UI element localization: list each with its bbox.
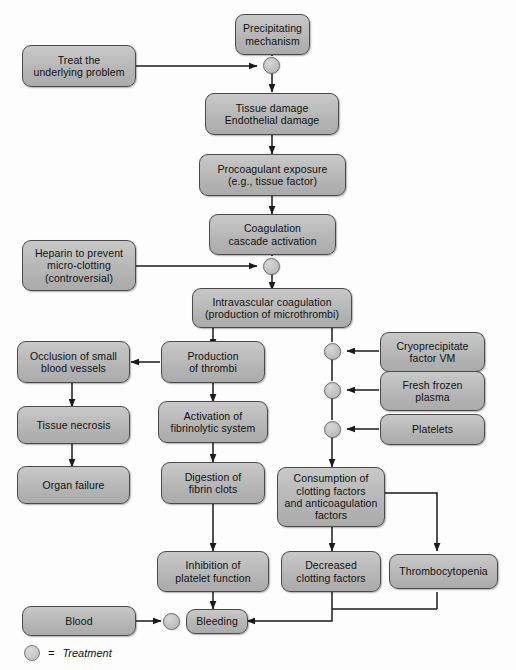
treatment-node-heparin-icon <box>263 258 280 275</box>
node-decreased-clotting-factors: Decreasedclotting factors <box>281 551 381 592</box>
node-tissue-necrosis: Tissue necrosis <box>17 406 130 444</box>
node-consumption-clotting-factors-label: Consumption ofclotting factorsand antico… <box>281 472 381 521</box>
node-bleeding: Bleeding <box>186 609 248 634</box>
node-tissue-damage-label: Tissue damageEndothelial damage <box>209 102 335 127</box>
node-treat-underlying-problem-label: Treat theunderlying problem <box>26 54 132 79</box>
node-tissue-necrosis-label: Tissue necrosis <box>21 419 126 431</box>
node-precipitating-mechanism: Precipitatingmechanism <box>235 14 310 55</box>
node-thrombocytopenia-label: Thrombocytopenia <box>393 565 494 577</box>
node-production-of-thrombi: Productionof thrombi <box>161 341 265 383</box>
node-occlusion-small-blood-vessels: Occlusion of smallblood vessels <box>17 341 130 383</box>
treatment-node-platelets-icon <box>324 421 341 438</box>
node-intravascular-coagulation: Intravascular coagulation(production of … <box>192 288 352 328</box>
node-procoagulant-exposure: Procoagulant exposure(e.g., tissue facto… <box>199 154 346 196</box>
legend: = Treatment <box>24 645 112 661</box>
node-organ-failure: Organ failure <box>17 466 130 504</box>
treatment-node-precipitating-icon <box>263 57 280 74</box>
treatment-node-cryoprecipitate-icon <box>324 343 341 360</box>
node-tissue-damage: Tissue damageEndothelial damage <box>205 93 339 135</box>
legend-equals: = <box>48 647 54 659</box>
node-intravascular-coagulation-label: Intravascular coagulation(production of … <box>196 296 348 321</box>
node-blood: Blood <box>22 606 136 636</box>
node-bleeding-label: Bleeding <box>190 615 244 627</box>
node-thrombocytopenia: Thrombocytopenia <box>389 554 498 589</box>
node-treat-underlying-problem: Treat theunderlying problem <box>22 45 136 87</box>
node-digestion-fibrin-clots: Digestion offibrin clots <box>161 462 265 504</box>
node-occlusion-small-blood-vessels-label: Occlusion of smallblood vessels <box>21 350 126 375</box>
node-coagulation-cascade-activation: Coagulationcascade activation <box>209 214 336 255</box>
node-inhibition-platelet-function: Inhibition ofplatelet function <box>157 551 269 592</box>
node-heparin-micro-clotting: Heparin to preventmicro-clotting(controv… <box>22 240 136 291</box>
legend-label: Treatment <box>62 647 111 659</box>
treatment-node-blood-icon <box>163 613 180 630</box>
node-inhibition-platelet-function-label: Inhibition ofplatelet function <box>161 559 265 584</box>
treatment-circle-icon <box>24 645 40 661</box>
flowchart-diagram: Precipitatingmechanism Treat theunderlyi… <box>0 0 516 670</box>
node-production-of-thrombi-label: Productionof thrombi <box>165 350 261 375</box>
node-blood-label: Blood <box>26 615 132 627</box>
node-platelets: Platelets <box>380 414 485 445</box>
node-organ-failure-label: Organ failure <box>21 479 126 491</box>
node-procoagulant-exposure-label: Procoagulant exposure(e.g., tissue facto… <box>203 163 342 188</box>
node-cryoprecipitate-factor: Cryoprecipitatefactor VM <box>380 332 485 372</box>
node-digestion-fibrin-clots-label: Digestion offibrin clots <box>165 471 261 496</box>
node-cryoprecipitate-factor-label: Cryoprecipitatefactor VM <box>384 340 481 365</box>
node-platelets-label: Platelets <box>384 423 481 435</box>
node-fresh-frozen-plasma-label: Fresh frozenplasma <box>384 379 481 404</box>
node-activation-fibrinolytic-system-label: Activation offibrinolytic system <box>162 410 264 435</box>
node-coagulation-cascade-activation-label: Coagulationcascade activation <box>213 222 332 247</box>
node-heparin-micro-clotting-label: Heparin to preventmicro-clotting(controv… <box>26 247 132 284</box>
node-consumption-clotting-factors: Consumption ofclotting factorsand antico… <box>277 467 385 527</box>
node-decreased-clotting-factors-label: Decreasedclotting factors <box>285 559 377 584</box>
node-precipitating-mechanism-label: Precipitatingmechanism <box>239 22 306 47</box>
treatment-node-fresh-frozen-plasma-icon <box>324 382 341 399</box>
node-activation-fibrinolytic-system: Activation offibrinolytic system <box>158 401 268 443</box>
node-fresh-frozen-plasma: Fresh frozenplasma <box>380 371 485 411</box>
